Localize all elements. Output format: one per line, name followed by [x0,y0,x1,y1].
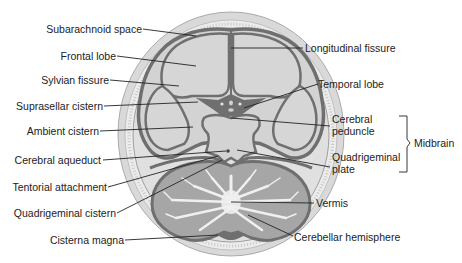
label-vermis: Vermis [316,198,348,209]
label-suprasellar-cistern: Suprasellar cistern [16,101,103,112]
label-subarachnoid-space: Subarachnoid space [46,24,142,35]
cerebral-aqueduct-dot [226,149,230,153]
label-ambient-cistern: Ambient cistern [27,126,99,137]
label-cerebral-peduncle-2: peduncle [332,126,375,137]
label-temporal-lobe: Temporal lobe [318,79,384,90]
label-frontal-lobe: Frontal lobe [61,51,116,62]
label-cerebellar-hemisphere: Cerebellar hemisphere [294,232,400,243]
label-cerebral-peduncle-1: Cerebral [332,114,372,125]
label-cerebral-aqueduct: Cerebral aqueduct [15,155,101,166]
label-tentorial-attachment: Tentorial attachment [12,182,107,193]
label-quadrigeminal-plate-2: plate [332,164,355,175]
label-quadrigeminal-cistern: Quadrigeminal cistern [14,208,116,219]
label-cisterna-magna: Cisterna magna [50,235,124,246]
midbrain [202,115,259,162]
label-longitudinal-fissure: Longitudinal fissure [305,43,395,54]
label-midbrain: Midbrain [414,138,454,149]
label-quadrigeminal-plate-1: Quadrigeminal [332,152,400,163]
label-sylvian-fissure: Sylvian fissure [41,75,109,86]
midbrain-bracket [399,116,410,172]
